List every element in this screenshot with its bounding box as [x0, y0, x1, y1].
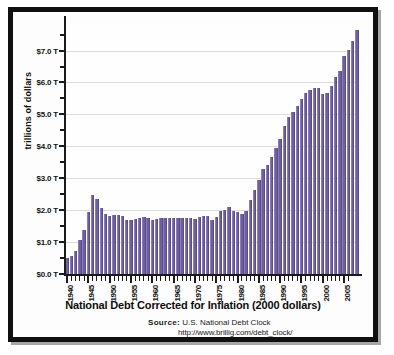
x-axis-minor-tick	[224, 276, 225, 281]
x-axis-minor-tick	[177, 276, 178, 281]
bar	[146, 218, 149, 275]
x-axis-minor-tick	[212, 276, 213, 281]
y-axis-tick-label: $1.0 T	[37, 238, 58, 247]
bar	[283, 126, 286, 274]
y-axis-tick	[59, 273, 66, 275]
bar	[78, 240, 81, 274]
bar	[142, 217, 145, 274]
bar	[189, 218, 192, 274]
bar	[163, 218, 166, 274]
y-axis-minor-tick	[60, 66, 66, 68]
y-axis-minor-tick	[60, 257, 66, 259]
bar	[291, 112, 294, 274]
x-axis-minor-tick	[305, 276, 306, 281]
x-axis-minor-tick	[292, 276, 293, 281]
x-axis-minor-tick	[318, 276, 319, 281]
bar	[108, 216, 111, 274]
y-axis-tick	[59, 209, 66, 211]
bar	[159, 218, 162, 274]
bar	[313, 88, 316, 274]
gridline	[65, 82, 359, 83]
bar	[193, 219, 196, 274]
bar	[95, 199, 98, 274]
y-axis-tick	[59, 50, 66, 52]
bar	[351, 41, 354, 274]
bar	[232, 211, 235, 274]
x-axis-minor-tick	[118, 276, 119, 281]
bar	[210, 220, 213, 274]
x-axis-minor-tick	[139, 276, 140, 281]
plot-region: 1940194519501955196019651970197519801985…	[65, 25, 359, 274]
x-axis-minor-tick	[143, 276, 144, 281]
x-axis-minor-tick	[241, 276, 242, 281]
x-axis-minor-tick	[314, 276, 315, 281]
y-axis-tick	[59, 113, 66, 115]
bar	[82, 230, 85, 274]
x-axis-tick	[258, 276, 260, 283]
x-axis-minor-tick	[254, 276, 255, 281]
y-axis-tick-label: $5.0 T	[37, 110, 58, 119]
x-axis-minor-tick	[348, 276, 349, 281]
bar	[185, 218, 188, 275]
bar	[304, 93, 307, 274]
bar	[100, 208, 103, 274]
bar	[249, 200, 252, 274]
y-axis-tick	[59, 241, 66, 243]
bar	[330, 86, 333, 274]
source-line: Source: U.S. National Debt Clock	[148, 318, 363, 328]
x-axis-minor-tick	[263, 276, 264, 281]
y-axis-title: trillions of dollars	[23, 72, 33, 150]
x-axis-minor-tick	[135, 276, 136, 281]
bar	[112, 215, 115, 274]
x-axis-minor-tick	[105, 276, 106, 281]
x-axis-minor-tick	[203, 276, 204, 281]
bar	[342, 56, 345, 274]
bar	[253, 190, 256, 274]
bar	[223, 210, 226, 274]
y-axis-minor-tick	[60, 161, 66, 163]
bar	[206, 216, 209, 274]
x-axis-minor-tick	[207, 276, 208, 281]
x-axis-tick	[109, 276, 111, 283]
x-axis-minor-tick	[284, 276, 285, 281]
x-axis-minor-tick	[288, 276, 289, 281]
bar	[87, 212, 90, 274]
x-axis-minor-tick	[246, 276, 247, 281]
gridline	[65, 51, 359, 52]
y-axis-tick-label: $2.0 T	[37, 206, 58, 215]
bar	[266, 165, 269, 274]
bar	[151, 220, 154, 274]
y-axis-minor-tick	[60, 129, 66, 131]
bar	[300, 99, 303, 274]
bar	[134, 219, 137, 274]
y-axis-minor-tick	[60, 34, 66, 36]
bar	[202, 216, 205, 274]
x-axis-minor-tick	[310, 276, 311, 281]
plot-area	[65, 25, 359, 274]
bar	[261, 169, 264, 274]
x-axis-minor-tick	[126, 276, 127, 281]
y-axis-tick-label: $4.0 T	[37, 142, 58, 151]
x-axis-minor-tick	[271, 276, 272, 281]
bar	[215, 217, 218, 274]
x-axis-minor-tick	[339, 276, 340, 281]
x-axis-minor-tick	[331, 276, 332, 281]
x-axis-tick	[173, 276, 175, 283]
bar	[155, 219, 158, 274]
bar	[176, 218, 179, 274]
x-axis-minor-tick	[186, 276, 187, 281]
x-axis-minor-tick	[71, 276, 72, 281]
x-axis-minor-tick	[169, 276, 170, 281]
bar	[338, 71, 341, 274]
bar	[308, 90, 311, 275]
x-axis-minor-tick	[75, 276, 76, 281]
x-axis-minor-tick	[229, 276, 230, 281]
x-axis-minor-tick	[92, 276, 93, 281]
x-axis-tick	[343, 276, 345, 283]
y-axis-tick	[59, 81, 66, 83]
bar	[180, 218, 183, 274]
x-axis-tick	[87, 276, 89, 283]
bar	[334, 77, 337, 274]
y-axis-minor-tick	[60, 225, 66, 227]
chart-figure-frame: trillions of dollars 1940194519501955196…	[8, 7, 378, 342]
